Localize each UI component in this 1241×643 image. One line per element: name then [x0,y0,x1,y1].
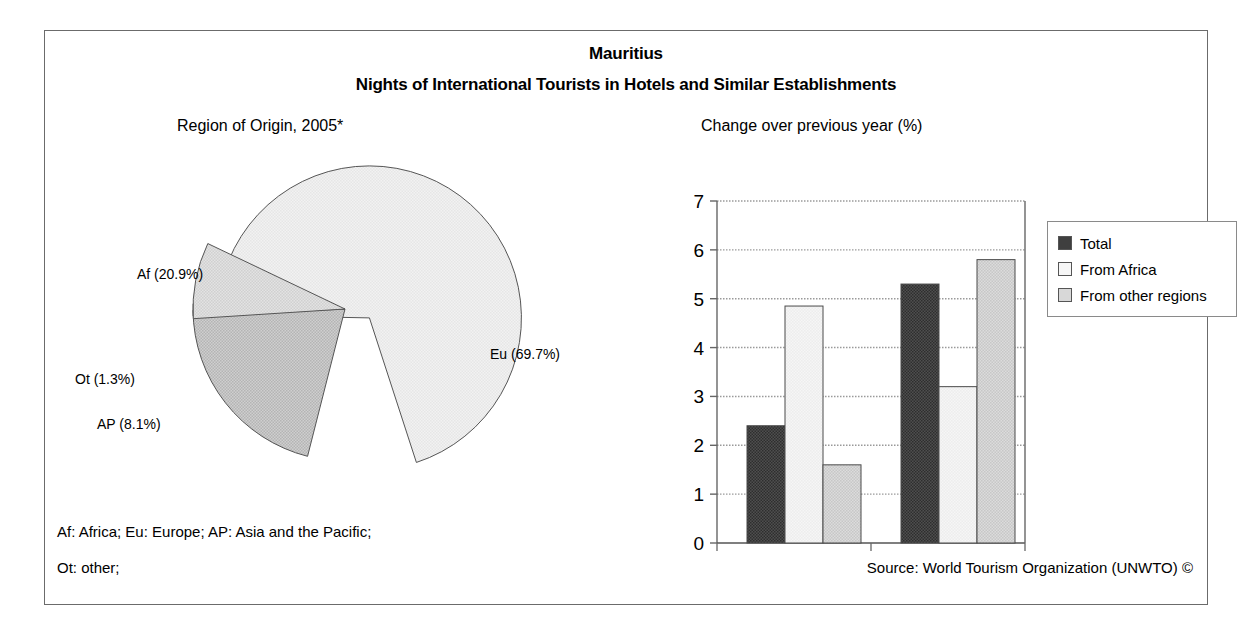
pie-label-africa: Af (20.9%) [137,266,203,282]
y-axis-tick-label: 0 [693,533,704,554]
y-axis-tick-label: 4 [693,338,704,359]
bar-20052004-total [901,284,939,543]
y-axis-tick-label: 5 [693,289,704,310]
pie-label-asia-pacific: AP (8.1%) [97,416,161,432]
legend-item-total: Total [1058,230,1236,256]
bar-chart: 01234567 2004/20032005*/2004 [645,141,1205,561]
legend-swatch-from-africa [1058,262,1072,276]
legend-item-from-other-regions: From other regions [1058,282,1236,308]
legend-label-total: Total [1080,235,1112,252]
pie-chart: Af (20.9%) Ot (1.3%) AP (8.1%) Eu (69.7%… [55,141,635,481]
bar-20042003-total [747,426,785,543]
y-axis-tick-label: 2 [693,435,704,456]
pie-slice-af [193,309,345,456]
pie-slice-group [193,166,521,463]
pie-label-other: Ot (1.3%) [75,371,135,387]
y-axis-tick-label: 6 [693,240,704,261]
y-axis-tick-label: 7 [693,191,704,212]
footnote-abbreviations-line2: Ot: other; [57,559,120,576]
legend-swatch-total [1058,236,1072,250]
page-subtitle: Nights of International Tourists in Hote… [45,75,1207,95]
footnote-abbreviations-line1: Af: Africa; Eu: Europe; AP: Asia and the… [57,523,371,540]
bar-group [747,260,1015,543]
y-axis-tick-labels: 01234567 [693,191,704,554]
bar-20052004-from-africa [939,387,977,543]
bar-chart-subtitle: Change over previous year (%) [701,117,922,135]
source-attribution: Source: World Tourism Organization (UNWT… [867,559,1193,576]
chart-legend: Total From Africa From other regions [1047,221,1237,317]
legend-label-from-africa: From Africa [1080,261,1157,278]
legend-item-from-africa: From Africa [1058,256,1236,282]
chart-frame: Mauritius Nights of International Touris… [44,30,1208,605]
bar-20042003-from-africa [785,306,823,543]
bar-20052004-from-other-regions [977,260,1015,543]
page-title: Mauritius [45,44,1207,64]
y-axis-tick-label: 1 [693,484,704,505]
pie-label-europe: Eu (69.7%) [490,346,560,362]
bar-20042003-from-other-regions [823,465,861,543]
x-axis-category-label: 2004/2003 [766,559,842,561]
pie-chart-subtitle: Region of Origin, 2005* [177,117,343,135]
bar-chart-svg: 01234567 2004/20032005*/2004 [645,141,1205,561]
y-axis-tick-label: 3 [693,386,704,407]
legend-swatch-from-other-regions [1058,288,1072,302]
legend-label-from-other-regions: From other regions [1080,287,1207,304]
